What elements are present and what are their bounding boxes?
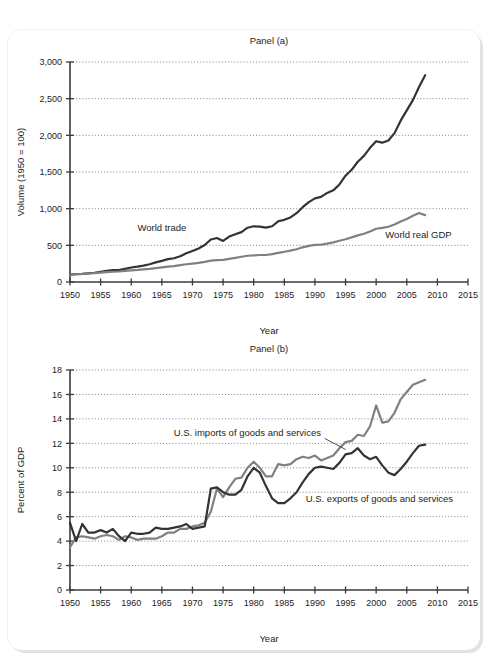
y-axis-tick-label: 3,000 xyxy=(39,57,62,67)
panel-a-xlabel: Year xyxy=(259,325,278,336)
y-axis-tick-label: 14 xyxy=(52,414,62,424)
y-axis-tick-label: 2,500 xyxy=(39,94,62,104)
x-axis-tick-label: 1990 xyxy=(305,290,325,300)
x-axis-tick-label: 1995 xyxy=(336,290,356,300)
series-label-world-real-gdp: World real GDP xyxy=(385,229,451,240)
panel-a-title: Panel (a) xyxy=(250,35,289,46)
y-axis-tick-label: 6 xyxy=(57,512,62,522)
x-axis-tick-label: 2000 xyxy=(366,598,386,608)
x-axis-tick-label: 1980 xyxy=(244,290,264,300)
y-axis-tick-label: 18 xyxy=(52,365,62,375)
y-axis-tick-label: 8 xyxy=(57,488,62,498)
x-axis-tick-label: 2010 xyxy=(427,598,447,608)
x-axis-tick-label: 1975 xyxy=(213,290,233,300)
x-axis-tick-label: 1995 xyxy=(336,598,356,608)
y-axis-tick-label: 1,500 xyxy=(39,167,62,177)
x-axis-tick-label: 2015 xyxy=(458,290,478,300)
x-axis-tick-label: 1960 xyxy=(121,598,141,608)
x-axis-tick-label: 2005 xyxy=(397,598,417,608)
x-axis-tick-label: 2000 xyxy=(366,290,386,300)
series-label-world-trade: World trade xyxy=(137,222,186,233)
y-axis-tick-label: 10 xyxy=(52,463,62,473)
y-axis-tick-label: 12 xyxy=(52,439,62,449)
panel-b-xlabel: Year xyxy=(259,633,278,644)
x-axis-tick-label: 1950 xyxy=(60,598,80,608)
y-axis-tick-label: 0 xyxy=(57,585,62,595)
series-line-world-real-gdp xyxy=(70,213,425,275)
x-axis-tick-label: 1990 xyxy=(305,598,325,608)
panel-b-chart: Panel (b)0246810121416181950195519601965… xyxy=(8,340,480,648)
x-axis-tick-label: 1975 xyxy=(213,598,233,608)
panel-b-ylabel: Percent of GDP xyxy=(15,447,26,514)
x-axis-tick-label: 1985 xyxy=(274,290,294,300)
x-axis-tick-label: 1985 xyxy=(274,598,294,608)
x-axis-tick-label: 1950 xyxy=(60,290,80,300)
y-axis-tick-label: 2,000 xyxy=(39,131,62,141)
series-line-u-s-imports-of-goods-and-services xyxy=(70,380,425,547)
panel-a-chart: Panel (a)05001,0001,5002,0002,5003,00019… xyxy=(8,32,480,340)
panel-a-ylabel: Volume (1950 = 100) xyxy=(15,128,26,216)
panel-b-title: Panel (b) xyxy=(250,343,289,354)
y-axis-tick-label: 16 xyxy=(52,390,62,400)
y-axis-tick-label: 0 xyxy=(57,277,62,287)
x-axis-tick-label: 2010 xyxy=(427,290,447,300)
x-axis-tick-label: 1965 xyxy=(152,598,172,608)
series-line-world-trade xyxy=(70,75,425,274)
y-axis-tick-label: 2 xyxy=(57,561,62,571)
x-axis-tick-label: 2015 xyxy=(458,598,478,608)
series-label-u-s-imports-of-goods-and-services: U.S. imports of goods and services xyxy=(174,427,322,438)
y-axis-tick-label: 1,000 xyxy=(39,204,62,214)
panel-b-svg: Panel (b)0246810121416181950195519601965… xyxy=(8,340,480,648)
x-axis-tick-label: 2005 xyxy=(397,290,417,300)
x-axis-tick-label: 1960 xyxy=(121,290,141,300)
y-axis-tick-label: 4 xyxy=(57,536,62,546)
series-label-u-s-exports-of-goods-and-services: U.S. exports of goods and services xyxy=(306,493,454,504)
x-axis-tick-label: 1955 xyxy=(91,290,111,300)
x-axis-tick-label: 1965 xyxy=(152,290,172,300)
x-axis-tick-label: 1980 xyxy=(244,598,264,608)
x-axis-tick-label: 1955 xyxy=(91,598,111,608)
panel-a-svg: Panel (a)05001,0001,5002,0002,5003,00019… xyxy=(8,32,480,340)
y-axis-tick-label: 500 xyxy=(47,241,62,251)
x-axis-tick-label: 1970 xyxy=(182,598,202,608)
x-axis-tick-label: 1970 xyxy=(182,290,202,300)
figure-card: Panel (a)05001,0001,5002,0002,5003,00019… xyxy=(8,30,480,650)
